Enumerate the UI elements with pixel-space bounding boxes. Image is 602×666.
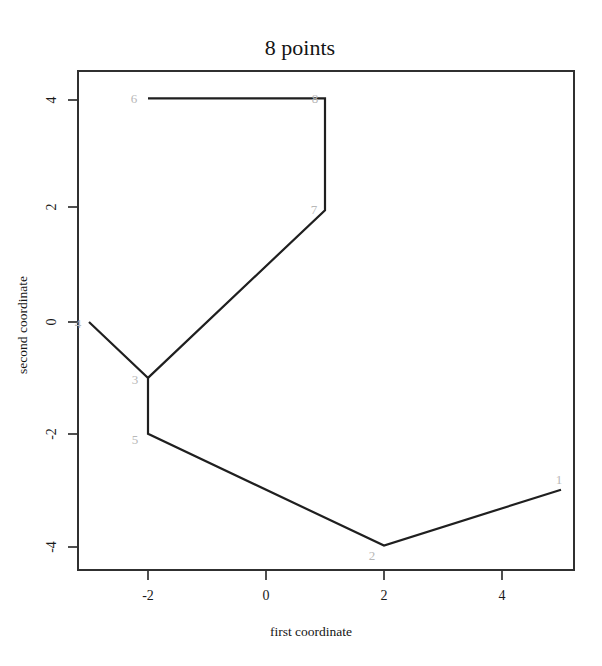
x-tick-labels: -2 0 2 4: [142, 588, 505, 603]
y-tick-label: -2: [44, 428, 59, 440]
y-axis-title: second coordinate: [15, 276, 30, 374]
point-label-2: 2: [369, 548, 376, 563]
y-tick-label: -4: [44, 541, 59, 553]
y-tick-label: 2: [44, 204, 59, 211]
data-polyline: [148, 98, 325, 378]
point-label-8: 8: [312, 91, 319, 106]
point-label-3: 3: [132, 372, 139, 387]
x-tick-label: -2: [142, 588, 154, 603]
data-polyline: [89, 322, 561, 546]
chart-figure: 8 points -2 0 2 4 4 2 0: [0, 0, 602, 666]
point-labels: 12345678: [75, 91, 563, 562]
x-tick-label: 4: [499, 588, 506, 603]
point-label-7: 7: [311, 202, 318, 217]
scatter-line-plot: 8 points -2 0 2 4 4 2 0: [0, 0, 602, 666]
x-tick-label: 0: [263, 588, 270, 603]
point-label-4: 4: [75, 316, 82, 331]
y-tick-labels: 4 2 0 -2 -4: [44, 97, 59, 553]
y-tick-label: 0: [44, 319, 59, 326]
point-label-5: 5: [132, 432, 139, 447]
data-series: [89, 98, 561, 545]
x-tick-label: 2: [381, 588, 388, 603]
point-label-6: 6: [131, 91, 138, 106]
x-axis-ticks: [148, 570, 502, 580]
chart-title: 8 points: [265, 35, 335, 60]
point-label-1: 1: [556, 472, 563, 487]
x-axis-title: first coordinate: [270, 624, 352, 639]
y-tick-label: 4: [44, 97, 59, 104]
